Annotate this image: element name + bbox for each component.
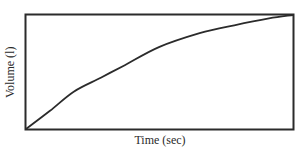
line-chart [0,0,306,150]
y-axis-label: Volume (l) [3,47,18,98]
x-axis-label: Time (sec) [25,133,295,148]
plot-frame [26,15,294,130]
volume-curve [26,15,293,129]
